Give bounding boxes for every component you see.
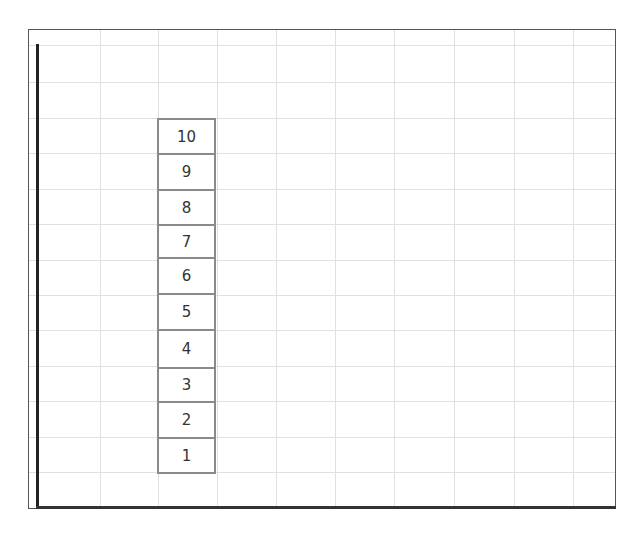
y-axis-line (36, 44, 39, 509)
numbered-box: 3 (157, 367, 216, 403)
grid-line-horizontal (29, 260, 615, 261)
grid-line-vertical (394, 30, 395, 507)
numbered-box: 10 (157, 118, 216, 155)
grid-line-horizontal (29, 295, 615, 296)
grid-line-vertical (335, 30, 336, 507)
numbered-box: 8 (157, 189, 216, 226)
grid-line-horizontal (29, 153, 615, 154)
grid-line-horizontal (29, 224, 615, 225)
box-label: 7 (159, 233, 214, 251)
grid-line-vertical (217, 30, 218, 507)
grid-line-horizontal (29, 401, 615, 402)
numbered-box: 5 (157, 293, 216, 331)
box-label: 9 (159, 163, 214, 181)
grid-line-horizontal (29, 45, 615, 46)
box-label: 8 (159, 199, 214, 217)
grid-line-horizontal (29, 437, 615, 438)
grid-line-horizontal (29, 189, 615, 190)
numbered-box: 1 (157, 437, 216, 474)
box-label: 1 (159, 447, 214, 465)
numbered-box: 6 (157, 257, 216, 295)
grid-line-horizontal (29, 82, 615, 83)
numbered-box: 7 (157, 224, 216, 259)
grid-line-vertical (276, 30, 277, 507)
numbered-box: 9 (157, 153, 216, 191)
x-axis-line (36, 506, 616, 509)
box-label: 4 (159, 340, 214, 358)
grid-line-vertical (573, 30, 574, 507)
grid-line-vertical (454, 30, 455, 507)
box-label: 3 (159, 376, 214, 394)
grid-line-horizontal (29, 330, 615, 331)
grid-line-vertical (100, 30, 101, 507)
box-label: 10 (159, 128, 214, 146)
box-label: 6 (159, 267, 214, 285)
grid-line-horizontal (29, 366, 615, 367)
numbered-box: 2 (157, 401, 216, 439)
numbered-box: 4 (157, 329, 216, 369)
grid-line-horizontal (29, 472, 615, 473)
box-label: 5 (159, 303, 214, 321)
box-label: 2 (159, 411, 214, 429)
grid-line-vertical (514, 30, 515, 507)
grid-line-horizontal (29, 118, 615, 119)
